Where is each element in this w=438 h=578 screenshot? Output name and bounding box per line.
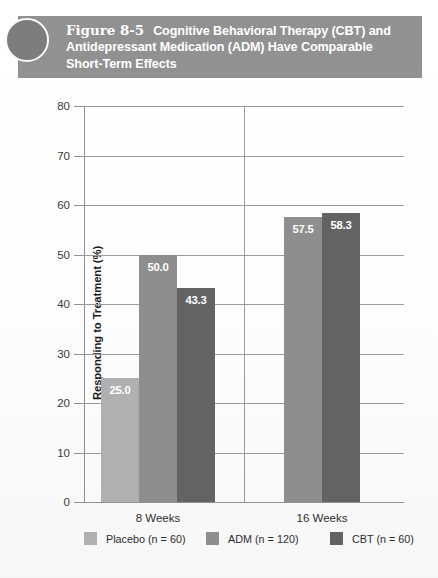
figure-number: Figure 8-5 — [66, 22, 153, 38]
y-axis-tick-label: 0 — [30, 496, 70, 508]
y-axis-tick-label: 70 — [30, 150, 70, 162]
bar-value-label: 58.3 — [322, 219, 360, 231]
y-axis-tick — [74, 403, 84, 404]
y-axis-tick — [74, 205, 84, 206]
legend-item-cbt: CBT (n = 60) — [330, 532, 414, 545]
y-axis-tick — [74, 502, 84, 503]
y-axis-tick-label: 40 — [30, 298, 70, 310]
y-axis-tick — [74, 354, 84, 355]
legend-label: Placebo (n = 60) — [106, 533, 186, 545]
y-axis-tick-label: 30 — [30, 348, 70, 360]
bar-value-label: 25.0 — [101, 384, 139, 396]
circle-bullet-icon — [5, 18, 49, 62]
legend-item-adm: ADM (n = 120) — [206, 532, 299, 545]
y-axis-tick — [74, 156, 84, 157]
bar-adm-16-weeks: 57.5 — [284, 217, 322, 502]
x-axis-category-label: 16 Weeks — [297, 512, 348, 524]
bar-value-label: 50.0 — [139, 261, 177, 273]
y-axis-tick — [74, 453, 84, 454]
figure-title-text: Figure 8-5Cognitive Behavioral Therapy (… — [66, 22, 412, 72]
legend-label: CBT (n = 60) — [352, 533, 414, 545]
legend-label: ADM (n = 120) — [228, 533, 299, 545]
legend-swatch-icon — [84, 532, 97, 545]
chart-legend: Placebo (n = 60)ADM (n = 120)CBT (n = 60… — [84, 532, 414, 554]
y-axis-tick-label: 80 — [30, 100, 70, 112]
y-axis-tick-label: 10 — [30, 447, 70, 459]
legend-swatch-icon — [330, 532, 343, 545]
bar-cbt-8-weeks: 43.3 — [177, 288, 215, 502]
chart-panel: Responding to Treatment (%) 010203040506… — [18, 84, 422, 562]
y-axis-tick — [74, 255, 84, 256]
y-axis-tick-label: 50 — [30, 249, 70, 261]
bar-value-label: 43.3 — [177, 294, 215, 306]
group-divider — [244, 106, 245, 502]
y-axis-tick — [74, 304, 84, 305]
bar-placebo-8-weeks: 25.0 — [101, 378, 139, 502]
plot-area: 01020304050607080 25.050.043.357.558.3 8… — [84, 106, 404, 502]
bar-adm-8-weeks: 50.0 — [139, 255, 177, 503]
legend-swatch-icon — [206, 532, 219, 545]
bar-cbt-16-weeks: 58.3 — [322, 213, 360, 502]
figure-title-banner: Figure 8-5Cognitive Behavioral Therapy (… — [18, 16, 422, 78]
x-axis-category-label: 8 Weeks — [136, 512, 181, 524]
bar-value-label: 57.5 — [284, 223, 322, 235]
figure-container: Figure 8-5Cognitive Behavioral Therapy (… — [0, 0, 438, 578]
legend-item-placebo: Placebo (n = 60) — [84, 532, 186, 545]
y-axis-tick — [74, 106, 84, 107]
y-axis-tick-label: 60 — [30, 199, 70, 211]
y-axis-tick-label: 20 — [30, 397, 70, 409]
